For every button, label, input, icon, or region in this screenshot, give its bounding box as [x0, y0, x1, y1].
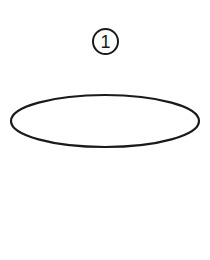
- ellipse-shape: [0, 0, 210, 260]
- diagram-canvas: 1: [0, 0, 210, 260]
